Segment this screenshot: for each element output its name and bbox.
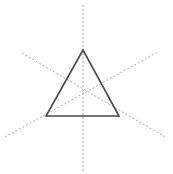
- diagram-background: [0, 0, 173, 174]
- symmetry-diagram-canvas: [0, 0, 173, 174]
